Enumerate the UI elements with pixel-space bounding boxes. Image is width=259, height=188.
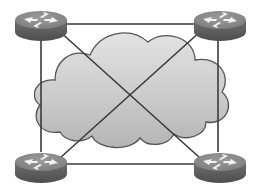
router-icon-top-left[interactable] <box>15 11 67 41</box>
diagram-canvas <box>0 0 259 188</box>
router-icon-bottom-right[interactable] <box>194 153 246 183</box>
network-diagram <box>0 0 259 188</box>
router-icon-top-right[interactable] <box>194 11 246 41</box>
router-icon-bottom-left[interactable] <box>15 153 67 183</box>
cloud-shape <box>34 33 228 148</box>
